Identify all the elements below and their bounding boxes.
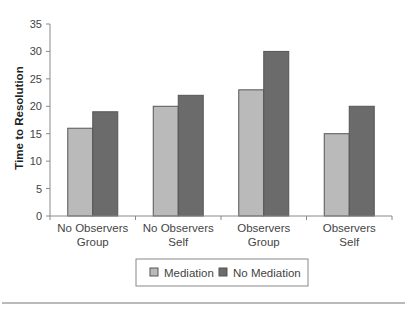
x-category-label: Self [168, 236, 189, 248]
legend-label: Mediation [164, 267, 214, 279]
bar-no-mediation [349, 106, 374, 216]
bar-no-mediation [178, 95, 203, 216]
y-axis-label: Time to Resolution [13, 66, 25, 169]
x-category-label: No Observers [143, 222, 214, 234]
x-category-label: Observers [323, 222, 376, 234]
bar-mediation [68, 128, 93, 216]
legend: MediationNo Mediation [136, 259, 308, 286]
bar-no-mediation [264, 51, 289, 216]
y-tick-label: 30 [30, 45, 42, 57]
x-category-label: Observers [237, 222, 290, 234]
bars [68, 51, 375, 216]
bar-chart: Time to Resolution 05101520253035 No Obs… [0, 0, 408, 309]
legend-swatch-icon [219, 268, 227, 276]
y-axis-title: Time to Resolution [13, 66, 25, 169]
x-category-label: Self [339, 236, 360, 248]
x-axis: No ObserversGroupNo ObserversSelfObserve… [50, 216, 392, 248]
x-category-label: No Observers [57, 222, 128, 234]
x-category-label: Group [77, 236, 109, 248]
bar-mediation [324, 134, 349, 216]
bar-mediation [239, 90, 264, 216]
y-tick-label: 20 [30, 100, 42, 112]
bar-mediation [153, 106, 178, 216]
y-tick-label: 0 [36, 210, 42, 222]
y-tick-label: 10 [30, 155, 42, 167]
bar-no-mediation [93, 112, 118, 216]
y-tick-label: 25 [30, 73, 42, 85]
y-tick-label: 5 [36, 183, 42, 195]
y-tick-label: 15 [30, 128, 42, 140]
legend-label: No Mediation [233, 267, 301, 279]
y-tick-label: 35 [30, 18, 42, 30]
legend-swatch-icon [150, 268, 158, 276]
x-category-label: Group [248, 236, 280, 248]
y-axis: 05101520253035 [30, 18, 50, 222]
